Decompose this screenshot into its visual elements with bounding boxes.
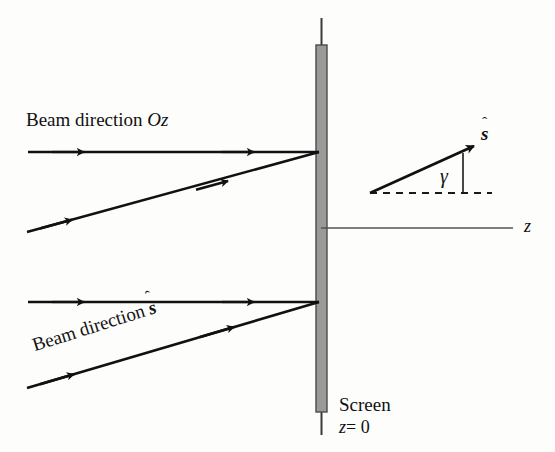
gamma-angle-label: γ	[440, 166, 448, 186]
upper-ray-slanted-arrow-1	[40, 220, 72, 229]
s-hat-symbol-hat: ˆs	[481, 124, 488, 143]
s-hat-vector-label: ˆs	[481, 124, 488, 143]
s-hat-vector-arrow	[370, 146, 474, 193]
diagram-canvas	[0, 0, 555, 452]
screen-position-value: = 0	[346, 417, 370, 437]
beam-direction-oz-symbol: Oz	[147, 109, 168, 130]
optics-ray-diagram: Beam direction Oz Beam direction ˆs ˆs γ…	[0, 0, 555, 452]
s-hat-vector-group	[370, 146, 492, 193]
beam-direction-oz-label: Beam direction Oz	[26, 110, 168, 129]
z-axis-label: z	[524, 217, 531, 235]
upper-beam-group	[27, 152, 319, 232]
lower-ray-slanted-arrow-1	[40, 374, 74, 384]
screen-group	[316, 18, 327, 435]
screen-title-label: Screen	[339, 395, 391, 414]
screen-position-symbol: z	[339, 417, 346, 437]
circumflex-accent-icon: ˆ	[482, 114, 487, 130]
lower-beam-group	[27, 302, 319, 388]
screen-position-label: z= 0	[339, 418, 370, 436]
beam-direction-oz-prefix: Beam direction	[26, 109, 147, 130]
lower-ray-slanted-arrow-2	[200, 327, 234, 337]
